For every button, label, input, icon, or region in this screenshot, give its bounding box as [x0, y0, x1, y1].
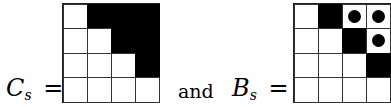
c-cell-1-0 — [63, 28, 88, 54]
c-cell-2-0 — [63, 53, 88, 79]
b-s-grid — [293, 3, 391, 103]
c-cell-1-2 — [111, 28, 136, 54]
c-cell-3-2 — [111, 77, 136, 103]
b-cell-0-0 — [294, 4, 319, 30]
c-symbol: C — [6, 74, 24, 102]
c-cell-2-2 — [111, 53, 136, 79]
b-cell-0-3 — [366, 4, 391, 30]
b-equals: = — [268, 74, 288, 102]
b-cell-2-2 — [342, 53, 367, 79]
b-cell-2-0 — [294, 53, 319, 79]
b-cell-2-3 — [366, 53, 391, 79]
b-cell-3-2 — [342, 77, 367, 103]
dot-icon — [372, 10, 385, 23]
c-cell-3-0 — [63, 77, 88, 103]
b-cell-0-1 — [318, 4, 343, 30]
c-cell-1-1 — [87, 28, 112, 54]
b-symbol: B — [232, 74, 250, 102]
dot-icon — [372, 34, 385, 47]
c-equals: = — [43, 74, 63, 102]
c-cell-0-1 — [87, 4, 112, 30]
c-cell-1-3 — [135, 28, 160, 54]
b-subscript: s — [250, 87, 257, 103]
c-cell-0-0 — [63, 4, 88, 30]
c-cell-2-1 — [87, 53, 112, 79]
b-cell-1-2 — [342, 28, 367, 54]
b-cell-1-0 — [294, 28, 319, 54]
c-cell-0-2 — [111, 4, 136, 30]
b-cell-1-1 — [318, 28, 343, 54]
b-cell-3-0 — [294, 77, 319, 103]
c-cell-3-3 — [135, 77, 160, 103]
b-cell-3-1 — [318, 77, 343, 103]
b-cell-2-1 — [318, 53, 343, 79]
c-subscript: s — [24, 87, 31, 103]
dot-icon — [348, 10, 361, 23]
b-cell-3-3 — [366, 77, 391, 103]
b-cell-1-3 — [366, 28, 391, 54]
c-cell-0-3 — [135, 4, 160, 30]
b-cell-0-2 — [342, 4, 367, 30]
c-s-label: Cs = — [6, 76, 63, 107]
c-cell-3-1 — [87, 77, 112, 103]
c-s-grid — [62, 3, 160, 103]
c-cell-2-3 — [135, 53, 160, 79]
b-s-label: Bs = — [232, 76, 289, 107]
and-connector: and — [178, 80, 214, 102]
